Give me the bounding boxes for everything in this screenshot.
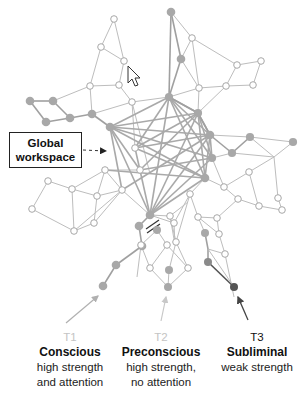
target-id: T2 [111, 330, 211, 345]
target-name: Preconscious [111, 345, 211, 360]
target-desc-line1: high strength [20, 360, 120, 375]
workspace-label-line2: workspace [16, 150, 75, 164]
mouse-pointer-icon [128, 66, 140, 86]
workspace-pointer-arrow [83, 150, 106, 151]
t3-node-mid [204, 258, 212, 266]
t3-input-arrow [238, 297, 248, 320]
workspace-label-line1: Global [28, 136, 64, 150]
t1-input-arrow [66, 296, 98, 323]
global-workspace-label: Global workspace [9, 132, 82, 168]
target-desc-line1: high strength, [111, 360, 211, 375]
target-name: Conscious [20, 345, 120, 360]
target-name: Subliminal [207, 345, 307, 360]
target-t1-label: T1 Conscious high strength and attention [20, 330, 120, 390]
target-id: T1 [20, 330, 120, 345]
t3-node-entry [230, 283, 238, 291]
target-desc-line2: and attention [20, 375, 120, 390]
t3-strong-edge [208, 262, 234, 287]
target-t3-label: T3 Subliminal weak strength [207, 330, 307, 375]
target-t2-label: T2 Preconscious high strength, no attent… [111, 330, 211, 390]
t2-input-arrow [161, 297, 166, 321]
target-desc-line1: weak strength [207, 360, 307, 375]
target-desc-line2: no attention [111, 375, 211, 390]
target-id: T3 [207, 330, 307, 345]
